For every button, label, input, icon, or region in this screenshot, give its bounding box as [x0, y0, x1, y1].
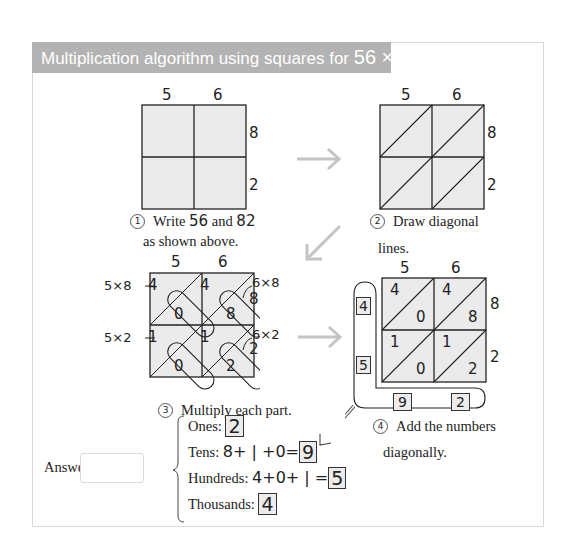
- step4-caption-line2: diagonally.: [383, 444, 447, 461]
- label-6x8: 6×8: [252, 275, 279, 290]
- cell-tens: 1: [390, 333, 400, 351]
- grid-step2: [370, 80, 510, 220]
- side-digit-2: 2: [487, 176, 497, 194]
- top-digit-6: 6: [451, 259, 461, 277]
- top-digit-6: 6: [213, 86, 223, 104]
- cell-ones: 0: [416, 308, 426, 326]
- top-digit-5: 5: [171, 253, 181, 271]
- thousands-row: Thousands: 4: [188, 491, 346, 517]
- step-number-4: 4: [373, 419, 388, 434]
- step2-caption-line2: lines.: [378, 240, 409, 257]
- sum-box-thousands: 5: [356, 356, 371, 374]
- diagram-title: Multiplication algorithm using squares f…: [32, 42, 391, 73]
- brace: [172, 414, 186, 524]
- cell-ones: 2: [226, 357, 236, 375]
- side-digit-8: 8: [249, 124, 259, 142]
- cell-ones: 0: [416, 360, 426, 378]
- side-digit-2: 2: [490, 348, 500, 366]
- sum-box-ones: 2: [451, 393, 470, 411]
- title-expression: 56 × 82: [354, 46, 421, 68]
- step1-caption-line2: as shown above.: [143, 233, 238, 250]
- side-digit-2: 2: [249, 176, 259, 194]
- sum-box-tens: 9: [393, 393, 412, 411]
- arrow-right-icon: [296, 323, 346, 353]
- top-digit-5: 5: [400, 259, 410, 277]
- cell-ones: 2: [468, 360, 478, 378]
- top-digit-5: 5: [162, 86, 172, 104]
- side-digit-8: 8: [490, 295, 500, 313]
- cell-ones: 0: [174, 357, 184, 375]
- cell-tens: 1: [442, 333, 452, 351]
- ones-row: Ones: 2: [188, 413, 346, 439]
- label-leader-lines: [135, 280, 255, 350]
- top-digit-5: 5: [401, 86, 411, 104]
- label-5x8: 5×8: [104, 278, 131, 293]
- answer-breakdown: Ones: 2 Tens: 8+ | +0=9 Hundreds: 4+0+ |…: [188, 413, 346, 517]
- title-text: Multiplication algorithm using squares f…: [41, 49, 349, 68]
- side-digit-8: 8: [487, 124, 497, 142]
- top-digit-6: 6: [452, 86, 462, 104]
- label-6x2: 6×2: [252, 327, 279, 342]
- step-number-2: 2: [370, 214, 385, 229]
- arrow-down-left-icon: [300, 222, 345, 267]
- step-number-3: 3: [158, 403, 173, 418]
- step4-caption: 4Add the numbers: [373, 418, 496, 435]
- hundreds-row: Hundreds: 4+0+ | =5: [188, 465, 346, 491]
- label-5x2: 5×2: [104, 330, 131, 345]
- step-number-1: 1: [130, 214, 145, 229]
- arrow-right-icon: [295, 145, 345, 175]
- cell-tens: 4: [442, 281, 452, 299]
- answer-input[interactable]: [80, 453, 144, 483]
- step1-caption: 1Write 56 and 82: [130, 212, 255, 230]
- top-digit-6: 6: [218, 253, 228, 271]
- tens-row: Tens: 8+ | +0=9: [188, 439, 346, 465]
- cell-ones: 8: [468, 308, 478, 326]
- step2-caption: 2Draw diagonal: [370, 213, 479, 230]
- cell-tens: 4: [390, 281, 400, 299]
- sum-box-hundreds: 4: [356, 297, 371, 315]
